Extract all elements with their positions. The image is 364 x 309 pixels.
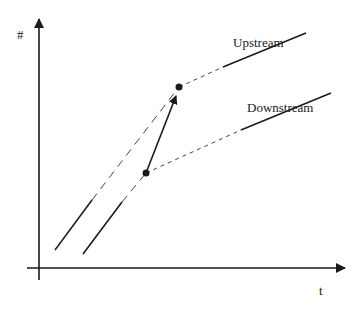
y-axis-label: #	[17, 27, 24, 42]
upstream-label: Upstream	[233, 35, 284, 50]
upstream-point	[176, 84, 183, 91]
diagram-canvas: # t Upstream Downstream	[0, 0, 364, 309]
downstream-curve	[83, 93, 331, 254]
upstream-curve	[55, 33, 306, 250]
x-axis-label: t	[319, 283, 323, 298]
diagram-svg: # t Upstream Downstream	[0, 0, 364, 309]
downstream-label: Downstream	[247, 100, 313, 115]
downstream-point	[143, 170, 150, 177]
